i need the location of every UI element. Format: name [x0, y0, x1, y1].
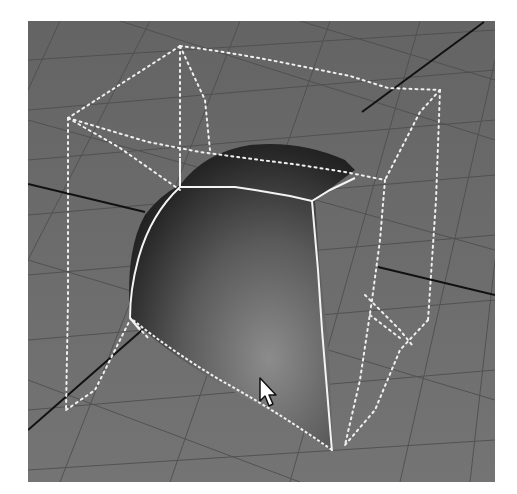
arrow-cursor-icon: [259, 377, 281, 411]
scene-canvas[interactable]: [28, 21, 495, 482]
3d-viewport[interactable]: [28, 21, 495, 482]
